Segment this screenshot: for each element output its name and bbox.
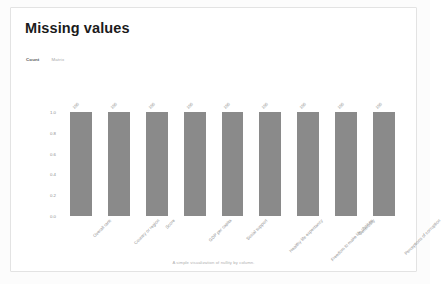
x-axis-tick: Social support <box>245 218 268 241</box>
bar[interactable] <box>184 112 206 216</box>
x-axis-tick: GDP per capita <box>208 218 233 243</box>
y-axis-tick: 0.4 <box>50 172 56 177</box>
bar-series <box>62 112 403 216</box>
bar[interactable] <box>335 112 357 216</box>
bar-slot <box>138 112 176 216</box>
x-axis-tick: Overall rank <box>92 218 112 238</box>
y-axis-tick: 0.2 <box>50 193 56 198</box>
page-title: Missing values <box>25 20 130 36</box>
bar-value-label: 156 <box>374 102 382 110</box>
bar-slot <box>176 112 214 216</box>
bar-slot <box>327 112 365 216</box>
chart-axes: 1.00.80.60.40.20.0 <box>26 112 403 216</box>
y-axis-tick: 0.0 <box>50 214 56 219</box>
bar-value-label: 156 <box>261 102 269 110</box>
bar[interactable] <box>297 112 319 216</box>
missing-values-card: Missing values Count Matrix 156156156156… <box>10 7 417 272</box>
bar-value-label: 156 <box>337 102 345 110</box>
bar-slot <box>214 112 252 216</box>
bar[interactable] <box>70 112 92 216</box>
bar[interactable] <box>259 112 281 216</box>
bar-value-label: 156 <box>185 102 193 110</box>
y-axis-tick: 1.0 <box>50 110 56 115</box>
bar-slot <box>100 112 138 216</box>
chart-caption: A simple visualization of nullity by col… <box>11 260 416 265</box>
chart-view-tabs: Count Matrix <box>26 57 64 62</box>
bar-value-label: 156 <box>299 102 307 110</box>
x-axis-tick-labels: Overall rankCountry or regionScoreGDP pe… <box>62 218 403 258</box>
y-axis-tick: 0.6 <box>50 151 56 156</box>
tab-matrix[interactable]: Matrix <box>51 57 64 62</box>
bar-value-label: 156 <box>109 102 117 110</box>
bar[interactable] <box>146 112 168 216</box>
tab-count[interactable]: Count <box>26 57 39 62</box>
x-axis-tick: Country or region <box>133 218 161 246</box>
bar-slot <box>62 112 100 216</box>
bar[interactable] <box>373 112 395 216</box>
bar-value-label: 156 <box>71 102 79 110</box>
x-axis-tick: Score <box>165 218 177 230</box>
bar-slot <box>365 112 403 216</box>
y-axis-tick: 0.8 <box>50 130 56 135</box>
bar-slot <box>289 112 327 216</box>
x-axis-tick: Healthy life expectancy <box>288 218 323 253</box>
y-axis-tick-labels: 1.00.80.60.40.20.0 <box>26 112 60 216</box>
bar-value-label: 156 <box>147 102 155 110</box>
bar[interactable] <box>222 112 244 216</box>
bar-slot <box>251 112 289 216</box>
bar-value-label-row: 156156156156156156156156156 <box>26 74 403 112</box>
nullity-bar-chart: 156156156156156156156156156 1.00.80.60.4… <box>26 74 403 259</box>
bar-value-label: 156 <box>223 102 231 110</box>
x-axis-tick: Perceptions of corruption <box>403 218 441 256</box>
bar[interactable] <box>108 112 130 216</box>
